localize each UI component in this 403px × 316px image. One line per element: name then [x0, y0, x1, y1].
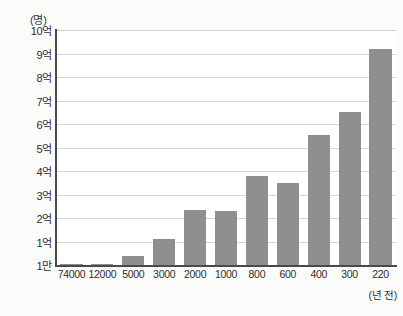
y-axis-tick-label: 7억: [4, 93, 52, 109]
y-axis-tick-label: 3억: [4, 187, 52, 203]
x-axis-tick-label: 600: [279, 268, 296, 280]
bar: [277, 183, 299, 265]
bar: [60, 264, 82, 265]
bar: [122, 256, 144, 265]
population-bar-chart: (명) 10억9억8억7억6억5억4억3억2억1억1만 740001200050…: [0, 0, 403, 316]
y-axis-tick-label: 4억: [4, 163, 52, 179]
x-axis-tick-label: 1000: [215, 268, 237, 280]
x-axis-caption: (년 전): [369, 287, 397, 302]
bar: [91, 264, 113, 265]
x-axis-tick-label: 3000: [153, 268, 175, 280]
y-axis-tick-label: 10억: [4, 22, 52, 38]
bars-group: [56, 30, 396, 265]
y-axis-tick-label: 5억: [4, 140, 52, 156]
y-axis-tick-label: 1만: [4, 257, 52, 273]
bar: [339, 112, 361, 265]
bar: [153, 239, 175, 265]
y-axis-tick-label: 8억: [4, 69, 52, 85]
x-axis-tick-label: 300: [341, 268, 358, 280]
x-axis-line: [55, 265, 397, 267]
x-axis-tick-label: 74000: [58, 268, 86, 280]
x-axis-tick-label: 220: [372, 268, 389, 280]
bar: [215, 211, 237, 265]
bar: [246, 176, 268, 265]
bar: [184, 210, 206, 265]
x-axis-tick-label: 800: [249, 268, 266, 280]
y-axis-tick-label: 2억: [4, 210, 52, 226]
bar: [369, 49, 391, 265]
x-axis-tick-label: 12000: [89, 268, 117, 280]
bar: [308, 135, 330, 265]
x-axis-tick-labels: 7400012000500030002000100080060040030022…: [56, 268, 396, 288]
y-axis-tick-label: 9억: [4, 46, 52, 62]
y-axis-tick-labels: 10억9억8억7억6억5억4억3억2억1억1만: [0, 0, 52, 316]
y-axis-tick-label: 6억: [4, 116, 52, 132]
x-axis-tick-label: 400: [310, 268, 327, 280]
x-axis-tick-label: 5000: [122, 268, 144, 280]
y-axis-tick-label: 1억: [4, 234, 52, 250]
x-axis-tick-label: 2000: [184, 268, 206, 280]
